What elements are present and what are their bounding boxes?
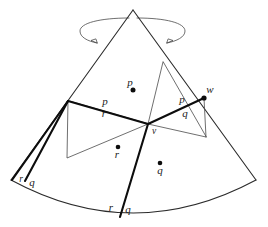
label-p-top: p [126,76,133,88]
heavy-edge-v-to-w [148,98,204,124]
rotation-arc-right [137,18,185,43]
heavy-skeleton [12,98,204,217]
label-vertex-w: w [206,83,214,95]
label-q-bottom-mid: q [125,203,131,215]
rotation-indicator [80,18,185,43]
sector-edge-right [133,10,256,180]
heavy-edge-left-outer [12,101,68,180]
label-q-bottom-left: q [29,176,35,188]
label-r-left-edge: r [102,107,107,119]
label-q-right-edge: q [182,107,188,119]
figure-container: p p r p q r q r q r q v w [0,0,268,227]
face-dot-p [131,88,136,93]
cone-sector-diagram: p p r p q r q r q r q v w [0,0,268,227]
label-r-bottom-left: r [19,174,23,184]
label-p-right-edge: p [178,93,185,105]
heavy-edge-left-inner [25,101,68,181]
label-vertex-v: v [152,126,157,136]
vertex-w-dot [201,95,206,100]
label-q-center: q [157,164,163,176]
left-construction-triangle [67,101,148,158]
heavy-edge-node-to-v [68,101,148,124]
vertex-dots [116,88,207,166]
label-r-bottom-mid: r [109,201,114,213]
heavy-edge-v-to-arc [120,124,148,217]
w-to-lower-thin-edge [204,98,206,137]
rotation-arc-left [80,18,129,43]
sector-arc-bottom [11,180,256,213]
sector-outline [11,10,256,213]
label-p-left-edge: p [101,95,108,107]
label-r-center: r [115,148,120,160]
